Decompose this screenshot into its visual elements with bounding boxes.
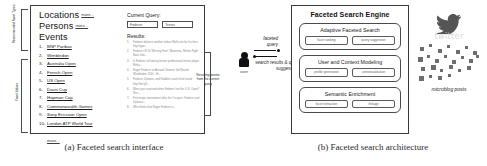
- module-title: Semantic Enrichment: [300, 91, 400, 97]
- post-square: [449, 65, 453, 69]
- facet-label-events: Events: [39, 32, 68, 42]
- event-label[interactable]: Hopman Cup: [47, 95, 73, 100]
- event-index: 7-: [39, 94, 47, 103]
- list-item[interactable]: 4.Roger Federer vs Arnaud Clement 3rd Ro…: [127, 69, 200, 77]
- event-label[interactable]: Sony Ericsson Open: [47, 112, 87, 117]
- event-label[interactable]: Davis Cup: [47, 87, 67, 92]
- list-item[interactable]: 1.Federer delivers another Indian Wells …: [127, 41, 200, 49]
- facet-header-events[interactable]: Events: [39, 32, 125, 42]
- list-item[interactable]: 5-US Open: [39, 77, 125, 86]
- event-label[interactable]: BNP Paribas: [47, 44, 72, 49]
- post-square: [458, 69, 461, 72]
- list-item[interactable]: 6.Were you surprised when Federer lost t…: [127, 88, 200, 96]
- list-item[interactable]: 8.Who thinks that Roger Federer is...: [127, 106, 200, 110]
- event-index: 6-: [39, 86, 47, 95]
- facet-header-persons[interactable]: Personsmore...: [39, 21, 125, 31]
- arrow-right-head: [277, 49, 280, 52]
- module-semantic-enrichment: Semantic Enrichment facet extraction lin…: [299, 87, 401, 114]
- result-text[interactable]: Were you surprised when Federer lost the…: [133, 88, 200, 96]
- query-chip-federer[interactable]: Federer: [127, 21, 158, 28]
- list-item[interactable]: 7.First major tournament after the Oz op…: [127, 97, 200, 105]
- module-user-and-context-modeling: User and Context Modeling profile genera…: [299, 55, 401, 82]
- faceted-search-architecture-panel: Faceted Search Engine Adaptive Faceted S…: [291, 5, 409, 134]
- component-profile-generation: profile generation: [305, 68, 348, 77]
- list-item[interactable]: 7-Hopman Cup: [39, 94, 125, 103]
- facet-types-bracket: [21, 9, 28, 51]
- post-square: [465, 46, 468, 49]
- list-item[interactable]: 6-Davis Cup: [39, 86, 125, 95]
- results-title: Results:: [127, 33, 200, 39]
- result-index: 2.: [127, 50, 131, 58]
- list-item[interactable]: 3-Australia Open: [39, 60, 125, 69]
- event-index: 9-: [39, 111, 47, 120]
- post-square: [419, 76, 424, 81]
- facet-values-annotation: Facet Values: [16, 70, 20, 114]
- list-item[interactable]: 9-Sony Ericsson Open: [39, 111, 125, 120]
- result-text[interactable]: Federer, Djokovic and Roddick reach thir…: [133, 78, 200, 86]
- post-square: [427, 55, 430, 58]
- list-item[interactable]: 1-BNP Paribas: [39, 43, 125, 52]
- post-square: [452, 60, 456, 64]
- post-square: [461, 56, 464, 59]
- query-chip-tennis[interactable]: Tennis: [162, 21, 193, 28]
- result-text[interactable]: First major tournament after the Oz open…: [133, 97, 200, 105]
- event-label[interactable]: Commonwealth Games: [47, 104, 92, 109]
- facet-types-annotation: Recommended Facet Types: [13, 2, 17, 46]
- list-item[interactable]: 8-Commonwealth Games: [39, 103, 125, 112]
- result-index: 7.: [127, 97, 131, 105]
- post-square: [420, 47, 424, 51]
- list-item[interactable]: 5.Federer, Djokovic and Roddick reach th…: [127, 78, 200, 86]
- post-square: [440, 69, 443, 72]
- result-text[interactable]: Federer Off To Winning Start; Wawrinka, …: [133, 50, 200, 58]
- result-text[interactable]: Who thinks that Roger Federer is...: [133, 106, 200, 110]
- event-index: 5-: [39, 77, 47, 86]
- event-index: 10-: [39, 120, 47, 129]
- post-square: [456, 50, 460, 54]
- event-index: 2-: [39, 52, 47, 61]
- list-item[interactable]: 4-French Open: [39, 69, 125, 78]
- arrow-left-shaft: [255, 56, 277, 57]
- result-index: 3.: [127, 60, 131, 68]
- list-item[interactable]: 3.Is Federer still dating former profess…: [127, 60, 200, 68]
- list-item[interactable]: 10-London ATP World Tour: [39, 120, 125, 129]
- result-index: 4.: [127, 69, 131, 77]
- list-item[interactable]: 2-Wimbledon: [39, 52, 125, 61]
- component-facet-extraction: facet extraction: [305, 100, 348, 109]
- post-square: [429, 44, 432, 47]
- microblog-posts-label: microblog posts: [415, 86, 483, 92]
- facet-values-bracket: [21, 59, 28, 133]
- list-item[interactable]: 2.Federer Off To Winning Start; Wawrinka…: [127, 50, 200, 58]
- caption-a: (a) Faceted search interface: [14, 142, 214, 152]
- result-text[interactable]: Roger Federer vs Arnaud Clement 3rd Roun…: [133, 69, 200, 77]
- event-label[interactable]: Wimbledon: [47, 53, 69, 58]
- query-and-results-column: Current Query: Federer Tennis Results: 1…: [127, 12, 200, 112]
- facet-column: Locationsmore... Personsmore... Events 1…: [39, 10, 125, 146]
- event-label[interactable]: US Open: [47, 78, 65, 83]
- event-label[interactable]: Australia Open: [47, 61, 76, 66]
- module-components: facet ranking query suggestion: [300, 36, 400, 45]
- facet-label-persons: Persons: [39, 21, 73, 31]
- caption-b: (b) Faceted search architecture: [268, 142, 478, 152]
- module-components: facet extraction linkage: [300, 100, 400, 109]
- post-square: [421, 67, 425, 71]
- twitter-bird-icon: [436, 14, 462, 34]
- more-link-locations[interactable]: more...: [81, 12, 94, 17]
- more-link-persons[interactable]: more...: [75, 23, 88, 28]
- event-label[interactable]: London ATP World Tour: [47, 121, 93, 126]
- microblog-posts-cloud: [418, 43, 480, 85]
- result-text[interactable]: Is Federer still dating former professio…: [133, 60, 200, 68]
- component-facet-ranking: facet ranking: [305, 36, 348, 45]
- event-index: 1-: [39, 43, 47, 52]
- twitter-wordmark: twitter: [415, 32, 483, 41]
- module-title: Adaptive Faceted Search: [300, 27, 400, 33]
- module-components: profile generation contextualization: [300, 68, 400, 77]
- facet-header-locations[interactable]: Locationsmore...: [39, 10, 125, 20]
- result-text[interactable]: Federer delivers another Indian Wells wi…: [133, 41, 200, 49]
- post-square: [429, 75, 432, 78]
- faceted-search-interface-panel: Locationsmore... Personsmore... Events 1…: [30, 5, 205, 134]
- result-index: 8.: [127, 106, 131, 110]
- current-query-title: Current Query:: [127, 12, 200, 18]
- event-label[interactable]: French Open: [47, 70, 72, 75]
- post-square: [438, 49, 442, 53]
- user-icon: [239, 52, 249, 68]
